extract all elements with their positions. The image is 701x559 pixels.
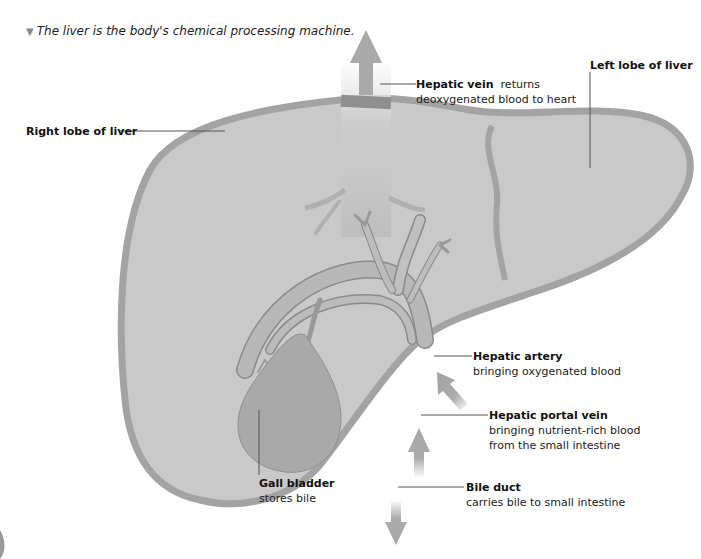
hepatic-vein-desc: deoxygenated blood to heart	[416, 92, 576, 107]
hepatic-vein-desc-inline: returns	[501, 78, 540, 91]
label-bile-duct: Bile duct carries bile to small intestin…	[466, 480, 625, 510]
label-hepatic-artery: Hepatic artery bringing oxygenated blood	[473, 349, 621, 379]
label-left-lobe: Left lobe of liver	[590, 58, 693, 73]
portal-vein-up-arrow	[408, 428, 430, 478]
label-hepatic-portal-vein: Hepatic portal vein bringing nutrient-ri…	[489, 408, 640, 453]
bile-duct-title: Bile duct	[466, 481, 521, 494]
hepatic-portal-vein-desc2: from the small intestine	[489, 438, 640, 453]
left-lobe-title: Left lobe of liver	[590, 59, 693, 72]
hepatic-vein-title: Hepatic vein	[416, 78, 494, 91]
label-gall-bladder: Gall bladder stores bile	[259, 476, 335, 506]
bile-duct-down-arrow	[385, 500, 407, 545]
hepatic-portal-vein-desc1: bringing nutrient-rich blood	[489, 423, 640, 438]
label-hepatic-vein: Hepatic vein returns deoxygenated blood …	[416, 77, 576, 107]
label-right-lobe: Right lobe of liver	[26, 124, 137, 139]
page-corner-element	[0, 530, 5, 559]
hepatic-artery-arrow	[437, 372, 468, 410]
gall-bladder-title: Gall bladder	[259, 477, 335, 490]
hepatic-artery-title: Hepatic artery	[473, 350, 563, 363]
bile-duct-desc: carries bile to small intestine	[466, 495, 625, 510]
right-lobe-title: Right lobe of liver	[26, 125, 137, 138]
liver-diagram	[0, 0, 701, 559]
hepatic-artery-desc: bringing oxygenated blood	[473, 364, 621, 379]
hepatic-portal-vein-title: Hepatic portal vein	[489, 409, 608, 422]
gall-bladder-desc: stores bile	[259, 491, 335, 506]
